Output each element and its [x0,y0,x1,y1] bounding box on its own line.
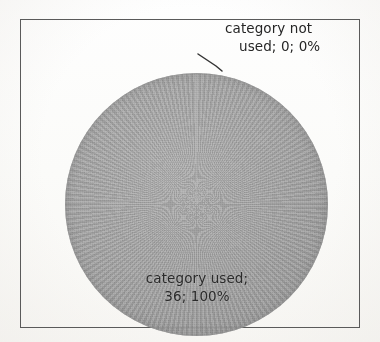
chart-frame: category not used; 0; 0% category used; … [20,19,360,328]
pie-label-not-used-line1: category not [217,20,345,38]
plot-area: category not used; 0; 0% category used; … [21,20,359,327]
pie-label-not-used-line2: used; 0; 0% [217,38,345,56]
pie-label-used-line1: category used; [99,269,295,287]
pie-label-category-used: category used; 36; 100% [99,269,295,305]
pie-label-category-not-used: category not used; 0; 0% [217,20,345,55]
pie-chart-screenshot: category not used; 0; 0% category used; … [0,0,380,342]
pie-label-used-line2: 36; 100% [99,287,295,305]
